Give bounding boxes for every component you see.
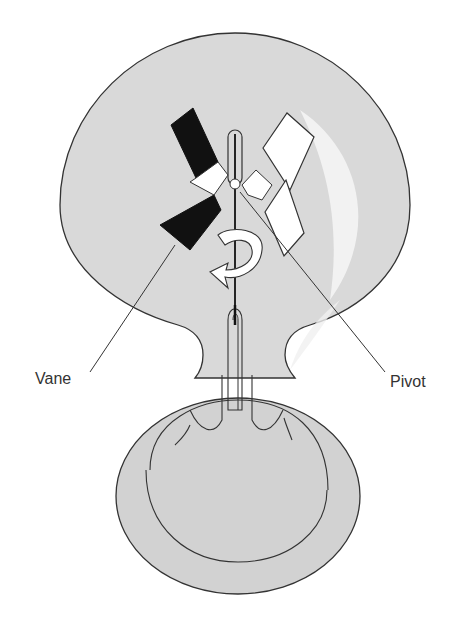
pivot-point — [230, 179, 240, 189]
pivot-label: Pivot — [390, 373, 426, 391]
radiometer-diagram — [0, 0, 464, 623]
vane-label: Vane — [35, 370, 71, 388]
